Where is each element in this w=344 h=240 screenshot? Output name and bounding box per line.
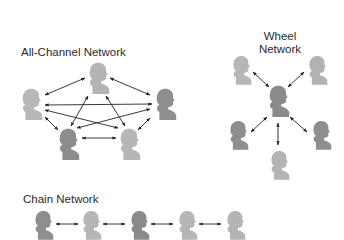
- network-diagram-canvas: [0, 0, 344, 240]
- person-icon: [313, 121, 331, 150]
- person-icon: [233, 56, 251, 85]
- person-icon: [35, 211, 53, 240]
- person-icon: [230, 121, 248, 150]
- person-icon: [90, 63, 110, 94]
- person-icon: [157, 89, 177, 120]
- person-icon: [121, 129, 141, 160]
- person-icon: [131, 211, 149, 240]
- person-icon: [179, 211, 197, 240]
- person-icon: [60, 129, 79, 160]
- person-icon-hub: [270, 86, 290, 117]
- all-channel-nodes: [23, 63, 177, 160]
- person-icon: [271, 151, 289, 180]
- person-icon: [23, 89, 43, 120]
- chain-nodes: [35, 211, 245, 240]
- person-icon: [83, 211, 101, 240]
- person-icon: [227, 211, 245, 240]
- wheel-nodes: [230, 56, 331, 180]
- person-icon: [309, 56, 327, 85]
